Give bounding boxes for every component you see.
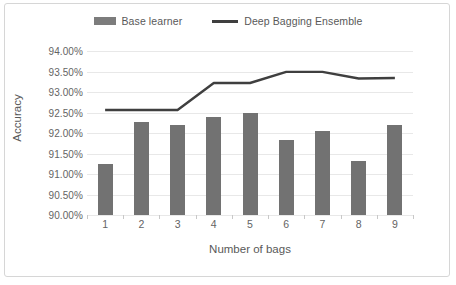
chart-legend: Base learner Deep Bagging Ensemble: [0, 13, 456, 29]
legend-label-base-learner: Base learner: [122, 15, 183, 27]
y-axis-tick-labels: 90.00%90.50%91.00%91.50%92.00%92.50%93.0…: [33, 51, 83, 215]
y-tick-label: 93.00%: [37, 87, 83, 98]
x-tick-label: 6: [283, 218, 289, 230]
y-tick-label: 90.50%: [37, 189, 83, 200]
x-tick-label: 3: [175, 218, 181, 230]
y-tick-label: 92.50%: [37, 107, 83, 118]
x-axis-title: Number of bags: [87, 243, 413, 255]
legend-line-swatch-icon: [212, 20, 238, 23]
x-axis-tick-labels: 123456789: [87, 218, 413, 234]
legend-item-deep-bagging-ensemble: Deep Bagging Ensemble: [212, 15, 362, 27]
x-tick-label: 5: [247, 218, 253, 230]
y-tick-label: 94.00%: [37, 46, 83, 57]
line-path: [105, 72, 395, 110]
y-tick-label: 93.50%: [37, 66, 83, 77]
y-axis-title: Accuracy: [11, 73, 23, 163]
x-tick-mark: [413, 215, 414, 219]
gridline: [87, 215, 413, 216]
y-tick-label: 91.50%: [37, 148, 83, 159]
y-tick-label: 91.00%: [37, 169, 83, 180]
line-series-deep-bagging-ensemble: [87, 51, 413, 215]
x-tick-label: 9: [392, 218, 398, 230]
x-tick-label: 2: [138, 218, 144, 230]
legend-bar-swatch-icon: [94, 17, 116, 25]
x-tick-label: 8: [356, 218, 362, 230]
legend-item-base-learner: Base learner: [94, 15, 183, 27]
chart-container: Base learner Deep Bagging Ensemble 90.00…: [0, 0, 456, 285]
x-tick-label: 4: [211, 218, 217, 230]
x-tick-label: 1: [102, 218, 108, 230]
y-tick-label: 92.00%: [37, 128, 83, 139]
plot-area: [87, 51, 413, 215]
y-tick-label: 90.00%: [37, 210, 83, 221]
legend-label-deep-bagging-ensemble: Deep Bagging Ensemble: [244, 15, 362, 27]
x-tick-label: 7: [320, 218, 326, 230]
